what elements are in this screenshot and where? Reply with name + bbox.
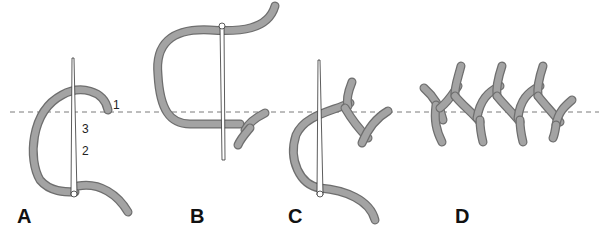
step-label-b: B [190, 205, 204, 228]
step-b-illustration [158, 6, 275, 160]
point-number-3: 3 [82, 122, 89, 136]
step-label-d: D [455, 205, 469, 228]
step-label-c: C [288, 205, 302, 228]
step-d-illustration [424, 66, 572, 142]
needle-icon [71, 58, 77, 195]
step-a-illustration [33, 58, 128, 212]
point-number-1: 1 [113, 98, 120, 112]
point-number-2: 2 [82, 144, 89, 158]
needle-icon [317, 60, 323, 195]
step-c-illustration [293, 60, 388, 220]
step-label-a: A [17, 205, 31, 228]
needle-icon [220, 26, 225, 160]
